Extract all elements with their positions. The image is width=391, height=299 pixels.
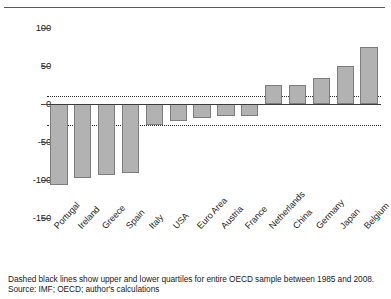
bar[interactable]	[265, 85, 282, 104]
y-axis-tick: 100	[3, 23, 51, 33]
y-axis-tick: 0	[3, 99, 51, 109]
bar[interactable]	[289, 85, 306, 104]
bar[interactable]	[241, 104, 258, 116]
bar[interactable]	[50, 104, 67, 185]
bar[interactable]	[313, 78, 330, 104]
y-axis-tick: -50	[3, 137, 51, 147]
zero-axis-line	[47, 104, 381, 105]
y-axis-tick-mark	[41, 28, 50, 29]
bar[interactable]	[217, 104, 234, 116]
plot-area: 100500-50-100-150	[0, 0, 389, 230]
y-axis-tick: 50	[3, 61, 51, 71]
bar[interactable]	[170, 104, 187, 121]
y-axis-tick: -150	[3, 213, 51, 223]
y-axis-tick: -100	[3, 175, 51, 185]
bar[interactable]	[122, 104, 139, 173]
y-axis-tick-mark	[41, 66, 50, 67]
y-axis-tick-mark	[41, 218, 50, 219]
footnote-line-2: Source: IMF; OECD; author's calculations	[8, 284, 383, 295]
bar[interactable]	[98, 104, 115, 175]
bar[interactable]	[360, 47, 377, 104]
y-axis-tick-mark	[41, 142, 50, 143]
bar[interactable]	[337, 66, 354, 104]
bar[interactable]	[193, 104, 210, 118]
bar[interactable]	[146, 104, 163, 125]
upper-quartile-line	[47, 96, 381, 97]
bar[interactable]	[74, 104, 91, 178]
y-axis-tick-mark	[41, 180, 50, 181]
